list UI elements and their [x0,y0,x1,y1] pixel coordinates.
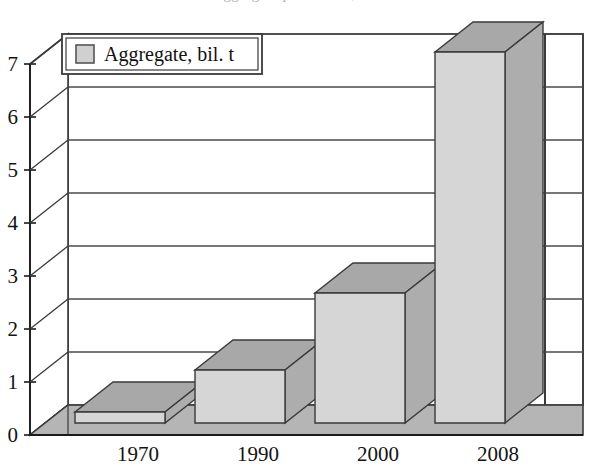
bar-2008 [435,22,543,423]
plot-left-wall [30,34,68,435]
x-axis-tick-labels: 1970 1990 2000 2008 [117,442,519,466]
x-tick-label-1990: 1990 [237,442,279,466]
y-tick-label-4: 4 [8,211,19,235]
bar-chart-svg: 7 6 5 4 3 2 1 0 [0,0,613,467]
legend-label-aggregate: Aggregate, bil. t [104,43,234,66]
y-tick-label-7: 7 [8,52,19,76]
y-tick-label-5: 5 [8,158,19,182]
plot-right-wall [545,34,583,405]
x-tick-label-2008: 2008 [477,442,519,466]
bar-1990-front [195,370,285,423]
y-axis-tick-labels: 7 6 5 4 3 2 1 0 [8,52,19,447]
x-tick-label-1970: 1970 [117,442,159,466]
bar-2000-front [315,293,405,423]
legend-swatch [76,45,94,63]
y-tick-label-6: 6 [8,105,19,129]
x-tick-label-2000: 2000 [357,442,399,466]
bar-2008-side [505,22,543,423]
y-tick-label-0: 0 [8,423,19,447]
chart-container: ggregate production, bil. t [0,0,613,467]
legend[interactable]: Aggregate, bil. t [62,34,262,74]
bar-1970-front [75,412,165,423]
y-tick-label-2: 2 [8,317,19,341]
y-tick-label-3: 3 [8,264,19,288]
bar-2008-front [435,52,505,423]
bar-2000 [315,263,443,423]
y-tick-label-1: 1 [8,370,19,394]
